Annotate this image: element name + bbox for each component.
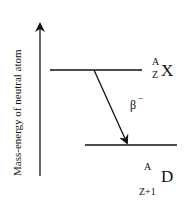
daughter-symbol: D [161,167,173,186]
beta-decay-diagram: Mass-energy of neutral atom A Z X β − A … [0,0,186,201]
beta-label: β [130,98,136,112]
decay-arrow [94,70,127,143]
diagram-svg: Mass-energy of neutral atom A Z X β − A … [0,0,186,201]
parent-symbol: X [161,61,173,80]
beta-sign: − [138,93,143,103]
parent-mass-number: A [152,56,160,67]
parent-atomic-number: Z [152,69,158,80]
daughter-atomic-number: Z+1 [139,186,156,197]
daughter-mass-number: A [144,161,152,172]
axis-label: Mass-energy of neutral atom [11,49,23,176]
